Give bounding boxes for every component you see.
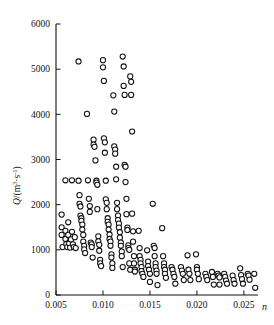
- data-point: [95, 182, 100, 187]
- data-point: [195, 271, 200, 276]
- data-point: [114, 200, 119, 205]
- data-point: [130, 211, 135, 216]
- y-tick-label: 1000: [31, 245, 50, 255]
- x-tick-label: 0.015: [139, 300, 161, 310]
- y-tick-label: 5000: [31, 64, 50, 74]
- data-point: [247, 277, 252, 282]
- data-point: [181, 278, 186, 283]
- y-axis-title: Q/(m3·s-1): [11, 166, 24, 205]
- data-point: [114, 177, 119, 182]
- data-point: [253, 285, 258, 290]
- data-point: [73, 245, 78, 250]
- data-point: [87, 203, 92, 208]
- x-tick-label: 0.010: [92, 300, 114, 310]
- data-point: [130, 239, 135, 244]
- data-point: [103, 178, 108, 183]
- data-point: [113, 151, 118, 156]
- data-point: [121, 83, 126, 88]
- data-point: [97, 248, 102, 253]
- data-point: [163, 275, 168, 280]
- data-point: [123, 164, 128, 169]
- data-point: [72, 235, 77, 240]
- data-point: [188, 278, 193, 283]
- data-point: [80, 222, 85, 227]
- data-point: [76, 178, 81, 183]
- x-axis-ticks: [56, 291, 244, 296]
- data-point: [147, 279, 152, 284]
- data-point: [196, 277, 201, 282]
- data-point: [137, 245, 142, 250]
- data-point: [97, 242, 102, 247]
- data-point: [217, 282, 222, 287]
- data-point: [232, 281, 237, 286]
- data-point: [76, 59, 81, 64]
- data-point: [160, 226, 165, 231]
- scatter-plot-canvas: 0100020003000400050006000 0.0050.0100.01…: [0, 0, 274, 325]
- data-point: [129, 79, 134, 84]
- data-point: [252, 271, 257, 276]
- data-point: [145, 248, 150, 253]
- data-point: [99, 263, 104, 268]
- data-point: [122, 92, 127, 97]
- data-point: [90, 255, 95, 260]
- data-point: [120, 54, 125, 59]
- data-point: [217, 275, 222, 280]
- data-point: [209, 269, 214, 274]
- data-point: [100, 58, 105, 63]
- data-point: [124, 212, 129, 217]
- data-point: [87, 209, 92, 214]
- data-point: [180, 271, 185, 276]
- data-point: [211, 282, 216, 287]
- x-tick-label: 0.005: [45, 300, 67, 310]
- data-point: [109, 255, 114, 260]
- x-axis-tick-labels: 0.0050.0100.0150.0200.025: [45, 300, 255, 310]
- data-point: [155, 282, 160, 287]
- data-point: [130, 229, 135, 234]
- data-point: [123, 179, 128, 184]
- data-point: [84, 111, 89, 116]
- data-point: [161, 254, 166, 259]
- data-point: [131, 261, 136, 266]
- y-axis-ticks: [56, 24, 61, 295]
- data-point: [106, 227, 111, 232]
- data-points-layer: [59, 54, 258, 290]
- data-point: [173, 281, 178, 286]
- data-point: [110, 265, 115, 270]
- svg-text:Q/(m3·s-1): Q/(m3·s-1): [11, 166, 24, 205]
- scatter-plot-figure: 0100020003000400050006000 0.0050.0100.01…: [0, 0, 274, 325]
- data-point: [95, 207, 100, 212]
- y-tick-label: 4000: [31, 110, 50, 120]
- data-point: [93, 158, 98, 163]
- data-point: [66, 220, 71, 225]
- data-point: [187, 271, 192, 276]
- data-point: [130, 129, 135, 134]
- data-point: [120, 264, 125, 269]
- data-point: [104, 207, 109, 212]
- data-point: [85, 178, 90, 183]
- data-point: [185, 253, 190, 258]
- data-point: [121, 64, 126, 69]
- data-point: [69, 229, 74, 234]
- data-point: [106, 222, 111, 227]
- data-point: [127, 247, 132, 252]
- data-point: [132, 269, 137, 274]
- data-point: [96, 234, 101, 239]
- data-point: [112, 109, 117, 114]
- y-axis-tick-labels: 0100020003000400050006000: [31, 19, 50, 300]
- data-point: [152, 254, 157, 259]
- data-point: [86, 196, 91, 201]
- data-point: [131, 254, 136, 259]
- data-point: [59, 212, 64, 217]
- data-point: [240, 281, 245, 286]
- data-point: [128, 74, 133, 79]
- data-point: [129, 92, 134, 97]
- data-point: [69, 178, 74, 183]
- data-point: [193, 252, 198, 257]
- data-point: [119, 254, 124, 259]
- data-point: [91, 137, 96, 142]
- data-point: [80, 227, 85, 232]
- x-axis-title: n: [262, 301, 267, 312]
- data-point: [102, 150, 107, 155]
- data-point: [114, 164, 119, 169]
- data-point: [147, 271, 152, 276]
